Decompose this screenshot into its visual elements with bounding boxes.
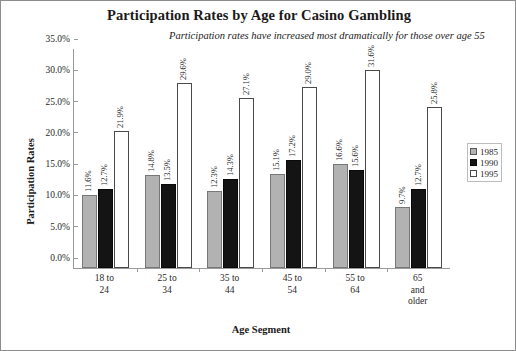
bar-slot: 9.7% [395, 49, 410, 268]
bar-1990-18-to-24[interactable]: 12.7% [98, 189, 113, 268]
bar-1995-55-to-64[interactable]: 31.6% [365, 70, 380, 268]
x-axis-label-line: 25 to [136, 273, 199, 285]
bar-slot: 13.5% [161, 49, 176, 268]
x-axis-title: Age Segment [73, 324, 449, 335]
bar-value-label: 9.7% [397, 187, 407, 205]
bar-1995-45-to-54[interactable]: 29.0% [302, 87, 317, 268]
x-axis-label-line: 34 [136, 285, 199, 297]
bar-slot: 15.1% [270, 49, 285, 268]
bar-value-label: 16.6% [334, 139, 344, 161]
bar-group: 16.6%15.6%31.6% [325, 49, 388, 268]
bar-value-label: 31.6% [366, 45, 376, 67]
bar-value-label: 29.0% [303, 62, 313, 84]
bar-value-label: 17.2% [287, 135, 297, 157]
legend-item-1990[interactable]: 1990 [470, 157, 498, 168]
bar-slot: 17.2% [286, 49, 301, 268]
bar-1990-25-to-34[interactable]: 13.5% [161, 184, 176, 268]
bar-1990-55-to-64[interactable]: 15.6% [349, 170, 364, 268]
x-axis-label-line: and [386, 285, 449, 297]
bar-value-label: 27.1% [241, 73, 251, 95]
x-axis-group-tick [199, 268, 200, 272]
bar-slot: 16.6% [333, 49, 348, 268]
bar-1985-25-to-34[interactable]: 14.8% [145, 175, 160, 268]
chart-subtitle: Participation rates have increased most … [169, 30, 516, 41]
bar-value-label: 14.8% [146, 150, 156, 172]
bar-value-label: 21.9% [115, 106, 125, 128]
x-axis-group-tick [137, 268, 138, 272]
x-axis-category-labels: 18 to2425 to3435 to4445 to5455 to6465and… [73, 273, 449, 319]
y-axis-tick-label: 15.0% [45, 159, 74, 169]
bar-slot: 27.1% [239, 49, 254, 268]
chart-legend: 198519901995 [467, 143, 502, 182]
bar-value-label: 13.5% [162, 159, 172, 181]
bar-1990-65-and-older[interactable]: 12.7% [411, 189, 426, 268]
x-axis-label-line: 35 to [198, 273, 261, 285]
bar-value-label: 25.8% [429, 82, 439, 104]
x-axis-group-tick [325, 268, 326, 272]
x-axis-label-line: 18 to [73, 273, 136, 285]
bar-slot: 21.9% [114, 49, 129, 268]
bar-group: 12.3%14.3%27.1% [199, 49, 262, 268]
chart-container: Participation Rates by Age for Casino Ga… [0, 0, 516, 351]
y-axis-tick-label: 0.0% [50, 253, 74, 263]
y-axis-tick: 30.0% [45, 65, 74, 75]
y-axis-title: Participation Rates [25, 102, 36, 262]
y-axis-tick-label: 20.0% [45, 128, 74, 138]
bar-slot: 29.6% [177, 49, 192, 268]
bar-value-label: 29.6% [178, 58, 188, 80]
legend-item-1995[interactable]: 1995 [470, 168, 498, 179]
y-axis-tick: 15.0% [45, 159, 74, 169]
y-axis-tick-label: 35.0% [45, 34, 74, 44]
x-axis-label-line: 55 to [324, 273, 387, 285]
y-axis-tick: 25.0% [45, 97, 74, 107]
x-axis-group-tick [387, 268, 388, 272]
plot-area: 0.0%5.0%10.0%15.0%20.0%25.0%30.0%35.0% 1… [73, 49, 450, 269]
bar-slot: 25.8% [427, 49, 442, 268]
legend-item-1985[interactable]: 1985 [470, 146, 498, 157]
legend-label: 1995 [480, 169, 498, 179]
bar-group: 11.6%12.7%21.9% [74, 49, 137, 268]
x-axis-label-25-to-34: 25 to34 [136, 273, 199, 319]
bar-value-label: 12.7% [413, 164, 423, 186]
x-axis-label-line: 44 [198, 285, 261, 297]
y-axis-tick-label: 10.0% [45, 190, 74, 200]
bar-1995-35-to-44[interactable]: 27.1% [239, 98, 254, 268]
y-axis-tick: 10.0% [45, 190, 74, 200]
bar-value-label: 15.6% [350, 145, 360, 167]
x-axis-label-18-to-24: 18 to24 [73, 273, 136, 319]
x-axis-label-line: 65 [386, 273, 449, 285]
bar-value-label: 11.6% [83, 171, 93, 193]
bar-1985-18-to-24[interactable]: 11.6% [82, 195, 97, 268]
bar-slot: 12.7% [98, 49, 113, 268]
bar-1990-35-to-44[interactable]: 14.3% [223, 179, 238, 268]
bar-slot: 15.6% [349, 49, 364, 268]
bar-1995-25-to-34[interactable]: 29.6% [177, 83, 192, 268]
bar-slot: 14.3% [223, 49, 238, 268]
bar-value-label: 12.7% [99, 164, 109, 186]
y-axis-tick: 0.0% [50, 253, 74, 263]
bar-groups: 11.6%12.7%21.9%14.8%13.5%29.6%12.3%14.3%… [74, 49, 450, 268]
bar-value-label: 12.3% [209, 166, 219, 188]
legend-label: 1985 [480, 147, 498, 157]
bar-group: 14.8%13.5%29.6% [137, 49, 200, 268]
bar-slot: 12.3% [207, 49, 222, 268]
bar-1985-45-to-54[interactable]: 15.1% [270, 174, 285, 268]
y-axis-tick: 20.0% [45, 128, 74, 138]
bar-slot: 11.6% [82, 49, 97, 268]
bar-slot: 12.7% [411, 49, 426, 268]
bar-1995-18-to-24[interactable]: 21.9% [114, 131, 129, 268]
x-axis-label-35-to-44: 35 to44 [198, 273, 261, 319]
bar-1990-45-to-54[interactable]: 17.2% [286, 160, 301, 268]
bar-1995-65-and-older[interactable]: 25.8% [427, 107, 442, 268]
bar-1985-55-to-64[interactable]: 16.6% [333, 164, 348, 268]
y-axis-tick-label: 30.0% [45, 65, 74, 75]
legend-swatch-icon [470, 148, 477, 155]
y-axis-tick: 35.0% [45, 34, 74, 44]
bar-value-label: 15.1% [271, 149, 281, 171]
bar-1985-35-to-44[interactable]: 12.3% [207, 191, 222, 268]
x-axis-label-line: 24 [73, 285, 136, 297]
bar-1985-65-and-older[interactable]: 9.7% [395, 207, 410, 268]
x-axis-label-55-to-64: 55 to64 [324, 273, 387, 319]
y-axis-tick-label: 5.0% [50, 222, 74, 232]
legend-swatch-icon [470, 159, 477, 166]
